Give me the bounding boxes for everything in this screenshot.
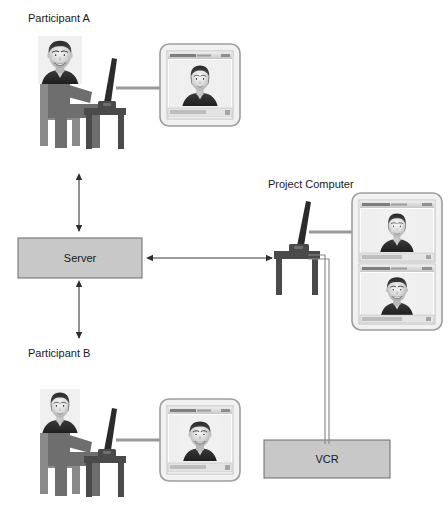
laptop-project-computer xyxy=(289,201,311,252)
workstation-participant-b xyxy=(40,389,240,497)
diagram-canvas: Participant A Project Computer Participa… xyxy=(0,0,448,518)
monitor-participant-a[interactable] xyxy=(160,44,240,126)
label-participant-a: Participant A xyxy=(28,12,90,24)
label-project-computer: Project Computer xyxy=(268,178,354,190)
diagram-svg: Participant A Project Computer Participa… xyxy=(0,0,448,518)
video-feed-woman-top xyxy=(378,210,416,252)
video-feed-man-bottom xyxy=(378,273,416,315)
desk-participant-a xyxy=(84,108,126,149)
node-vcr[interactable]: VCR xyxy=(264,440,390,478)
person-head-participant-a xyxy=(38,36,82,84)
monitor-window-bottom[interactable] xyxy=(359,264,435,324)
label-participant-b: Participant B xyxy=(28,347,90,359)
monitor-window-top[interactable] xyxy=(359,200,435,262)
video-feed-man xyxy=(180,417,220,461)
cable-project-computer-vcr xyxy=(308,255,329,444)
vcr-label: VCR xyxy=(315,453,338,465)
monitor-panel-project-computer[interactable] xyxy=(352,193,442,330)
desk-participant-b xyxy=(84,456,126,497)
desk-project-computer xyxy=(274,251,320,295)
workstation-project-computer xyxy=(274,193,442,444)
person-head-participant-b xyxy=(40,389,80,433)
server-label: Server xyxy=(64,252,97,264)
monitor-participant-b[interactable] xyxy=(160,399,240,481)
workstation-participant-a xyxy=(38,36,240,149)
node-server[interactable]: Server xyxy=(18,238,142,278)
laptop-participant-b xyxy=(98,408,117,457)
video-feed-woman xyxy=(180,62,220,106)
laptop-participant-a xyxy=(98,58,117,109)
